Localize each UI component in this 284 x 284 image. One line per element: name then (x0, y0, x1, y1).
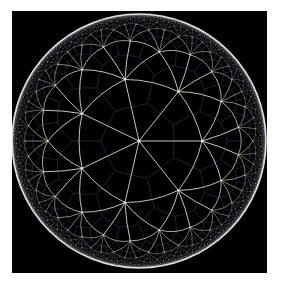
tiling-vertex (132, 16, 133, 17)
tiling-vertex (255, 153, 256, 154)
tiling-vertex (51, 225, 52, 226)
tiling-vertex (46, 70, 47, 71)
tiling-edge (68, 45, 82, 52)
tiling-vertex (15, 158, 16, 159)
tiling-vertex (144, 20, 145, 21)
tiling-vertex (30, 78, 31, 79)
tiling-vertex (17, 165, 18, 166)
tiling-vertex (97, 257, 98, 258)
tiling-edge (58, 51, 69, 52)
tiling-edge (232, 79, 242, 91)
tiling-edge (125, 141, 139, 203)
tiling-vertex (174, 26, 175, 27)
tiling-vertex (111, 260, 112, 261)
tiling-vertex (28, 84, 29, 85)
tiling-vertex (263, 122, 264, 123)
tiling-vertex (89, 28, 90, 29)
tiling-vertex (91, 247, 92, 248)
tiling-vertex (261, 126, 262, 127)
tiling-vertex (247, 205, 248, 206)
tiling-vertex (253, 193, 254, 194)
tiling-vertex (210, 52, 211, 53)
tiling-vertex (50, 230, 51, 231)
tiling-vertex (229, 53, 230, 54)
tiling-vertex (259, 168, 260, 169)
tiling-vertex (177, 189, 179, 191)
tiling-edge (82, 247, 91, 248)
tiling-edge (36, 190, 39, 202)
tiling-vertex (260, 173, 261, 174)
tiling-vertex (152, 265, 153, 266)
tiling-edge (139, 92, 178, 141)
tiling-vertex (238, 218, 239, 219)
tiling-vertex (23, 185, 24, 186)
tiling-vertex (157, 17, 158, 18)
tiling-vertex (130, 41, 131, 42)
tiling-edge (228, 64, 235, 66)
tiling-vertex (173, 21, 174, 22)
tiling-edge (202, 230, 210, 240)
tiling-vertex (225, 50, 226, 51)
tiling-vertex (157, 264, 158, 265)
tiling-vertex (16, 121, 17, 122)
tiling-edge (55, 196, 82, 212)
tiling-vertex (101, 30, 102, 31)
tiling-edge (101, 29, 114, 30)
tiling-vertex (196, 31, 197, 32)
tiling-vertex (15, 153, 16, 154)
tiling-vertex (150, 265, 151, 266)
tiling-vertex (82, 247, 83, 248)
tiling-edge (130, 241, 148, 252)
tiling-vertex (181, 23, 182, 24)
tiling-vertex (225, 232, 226, 233)
tiling-vertex (122, 16, 123, 17)
tiling-vertex (216, 239, 217, 240)
tiling-edge (22, 101, 29, 105)
tiling-vertex (56, 48, 57, 49)
tiling-vertex (79, 31, 80, 32)
tiling-vertex (185, 23, 186, 24)
tiling-vertex (17, 116, 18, 117)
tiling-vertex (86, 254, 87, 255)
tiling-vertex (207, 38, 208, 39)
tiling-vertex (25, 192, 26, 193)
tiling-vertex (16, 160, 17, 161)
tiling-vertex (20, 179, 21, 180)
tiling-vertex (254, 179, 255, 180)
tiling-vertex (25, 87, 26, 88)
tiling-vertex (32, 83, 33, 84)
tiling-vertex (264, 131, 265, 132)
tiling-vertex (111, 21, 112, 22)
tiling-vertex (37, 213, 38, 214)
tiling-vertex (108, 20, 109, 21)
tiling-edge (221, 181, 232, 203)
tiling-vertex (248, 85, 249, 86)
tiling-vertex (214, 240, 215, 241)
tiling-vertex (187, 252, 188, 253)
tiling-vertex (222, 48, 223, 49)
tiling-vertex (212, 40, 213, 41)
tiling-vertex (207, 35, 208, 36)
tiling-vertex (257, 100, 258, 101)
tiling-edge (38, 203, 39, 211)
tiling-vertex (52, 50, 53, 51)
tiling-vertex (241, 213, 242, 214)
tiling-vertex (40, 64, 41, 65)
tiling-vertex (261, 113, 262, 114)
tiling-vertex (148, 266, 149, 267)
tiling-vertex (75, 33, 76, 34)
tiling-edge (48, 218, 59, 220)
tiling-vertex (199, 247, 200, 248)
tiling-vertex (17, 143, 18, 144)
tiling-vertex (160, 263, 161, 264)
tiling-vertex (77, 33, 78, 34)
tiling-vertex (101, 252, 102, 253)
tiling-vertex (253, 93, 254, 94)
tiling-vertex (260, 176, 261, 177)
tiling-vertex (187, 30, 188, 31)
tiling-vertex (262, 120, 263, 121)
tiling-vertex (54, 49, 55, 50)
tiling-vertex (138, 15, 139, 16)
tiling-vertex (153, 266, 154, 267)
tiling-vertex (241, 70, 242, 71)
